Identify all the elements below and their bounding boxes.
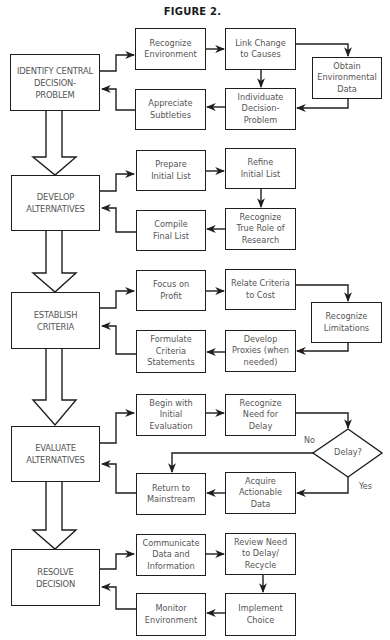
node-label: ImplementChoice bbox=[238, 603, 282, 626]
stage-establish-criteria: ESTABLISHCRITERIA bbox=[11, 292, 100, 349]
big-arrow-4 bbox=[33, 482, 76, 549]
node-label: RecognizeNeed forDelay bbox=[240, 398, 282, 433]
arrow-d5-to-m4 bbox=[102, 464, 136, 493]
decision-yes-label: Yes bbox=[359, 482, 372, 491]
node-label: IndividuateDecision-Problem bbox=[238, 92, 284, 127]
node-label: RecognizeEnvironment bbox=[144, 38, 196, 61]
step-recognize-limitations: RecognizeLimitations bbox=[311, 302, 382, 343]
step-develop-proxies: DevelopProxies (whenneeded) bbox=[225, 330, 296, 372]
big-arrow-3 bbox=[33, 349, 76, 425]
node-label: AcquireActionableData bbox=[239, 476, 282, 511]
node-label: RESOLVEDECISION bbox=[36, 566, 75, 590]
step-implement-choice: ImplementChoice bbox=[225, 593, 296, 636]
arrow-d3-no-to-d5 bbox=[172, 453, 313, 472]
node-label: CompileFinal List bbox=[153, 219, 189, 242]
node-label: Delay? bbox=[334, 447, 362, 457]
node-label: RecognizeTrue Role ofResearch bbox=[236, 212, 284, 247]
arrow-c2-to-c3 bbox=[295, 285, 348, 301]
node-label: Begin withInitialEvaluation bbox=[149, 398, 192, 433]
node-label: EVALUATEALTERNATIVES bbox=[26, 442, 84, 466]
step-recognize-need-for-delay: RecognizeNeed forDelay bbox=[225, 394, 296, 436]
stage-resolve-decision: RESOLVEDECISION bbox=[11, 549, 100, 606]
step-begin-with-initial-evaluation: Begin withInitialEvaluation bbox=[136, 394, 206, 436]
arrow-m4-to-d1 bbox=[100, 413, 134, 443]
arrow-e4-to-m5 bbox=[102, 587, 136, 609]
node-label: Focus onProfit bbox=[153, 279, 189, 302]
node-label: Return toMainstream bbox=[147, 483, 195, 506]
step-individuate-decision-problem: IndividuateDecision-Problem bbox=[225, 88, 296, 130]
step-recognize-environment: RecognizeEnvironment bbox=[135, 28, 206, 70]
node-label: DevelopProxies (whenneeded) bbox=[232, 334, 289, 369]
arrow-c5-to-m3 bbox=[102, 326, 136, 354]
step-review-need-to-delay-recycle: Review Needto Delay/Recycle bbox=[225, 533, 296, 575]
arrow-d2-to-d3 bbox=[295, 413, 348, 428]
node-label: CommunicateData andInformation bbox=[142, 538, 199, 573]
step-communicate-data-and-information: CommunicateData andInformation bbox=[136, 534, 206, 576]
node-label: MonitorEnvironment bbox=[145, 603, 197, 626]
big-arrow-1 bbox=[33, 111, 76, 175]
arrow-m5-to-e1 bbox=[100, 554, 134, 569]
node-label: PrepareInitial List bbox=[151, 159, 191, 182]
step-recognize-true-role-of-research: RecognizeTrue Role ofResearch bbox=[225, 208, 296, 250]
node-label: FormulateCriteriaStatements bbox=[147, 334, 194, 369]
stage-evaluate-alternatives: EVALUATEALTERNATIVES bbox=[11, 426, 100, 482]
node-label: ObtainEnvironmentalData bbox=[317, 61, 377, 96]
big-arrow-2 bbox=[33, 231, 76, 292]
arrow-m1-to-a1 bbox=[100, 55, 134, 71]
arrow-a2-to-a3 bbox=[295, 44, 348, 56]
arrow-a3-to-a4 bbox=[297, 99, 348, 108]
decision-delay-label: Delay? bbox=[318, 447, 378, 457]
arrow-b4-to-m2 bbox=[102, 208, 136, 232]
step-formulate-criteria-statements: FormulateCriteriaStatements bbox=[136, 330, 206, 373]
arrow-m3-to-c1 bbox=[100, 291, 134, 308]
node-label: RecognizeLimitations bbox=[324, 311, 369, 334]
step-acquire-actionable-data: AcquireActionableData bbox=[225, 472, 296, 514]
node-label: AppreciateSubtleties bbox=[148, 98, 192, 121]
decision-no-label: No bbox=[304, 436, 315, 445]
step-focus-on-profit: Focus onProfit bbox=[136, 270, 206, 311]
step-return-to-mainstream: Return toMainstream bbox=[136, 473, 206, 515]
arrow-c3-to-c4 bbox=[297, 342, 348, 351]
step-relate-criteria-to-cost: Relate Criteriato Cost bbox=[225, 269, 296, 310]
node-label: Review Needto Delay/Recycle bbox=[234, 537, 287, 572]
step-obtain-environmental-data: ObtainEnvironmentalData bbox=[312, 57, 382, 99]
node-label: Link Changeto Causes bbox=[235, 38, 286, 61]
node-label: ESTABLISHCRITERIA bbox=[34, 309, 78, 333]
node-label: Relate Criteriato Cost bbox=[231, 278, 290, 301]
stage-develop-alternatives: DEVELOPALTERNATIVES bbox=[11, 175, 100, 231]
step-compile-final-list: CompileFinal List bbox=[136, 210, 206, 251]
node-label: IDENTIFY CENTRALDECISION-PROBLEM bbox=[17, 65, 93, 101]
arrow-m2-to-b1 bbox=[100, 174, 134, 191]
step-link-change-to-causes: Link Changeto Causes bbox=[225, 28, 296, 70]
node-label: DEVELOPALTERNATIVES bbox=[26, 191, 84, 215]
node-label: RefineInitial List bbox=[241, 157, 281, 180]
arrow-a5-to-m1 bbox=[102, 89, 135, 110]
arrow-d3-yes-to-d4 bbox=[297, 476, 348, 493]
step-refine-initial-list: RefineInitial List bbox=[225, 148, 296, 189]
stage-identify-central-decision-problem: IDENTIFY CENTRALDECISION-PROBLEM bbox=[10, 54, 100, 111]
step-prepare-initial-list: PrepareInitial List bbox=[136, 150, 206, 191]
step-appreciate-subtleties: AppreciateSubtleties bbox=[135, 89, 206, 130]
step-monitor-environment: MonitorEnvironment bbox=[136, 593, 206, 636]
